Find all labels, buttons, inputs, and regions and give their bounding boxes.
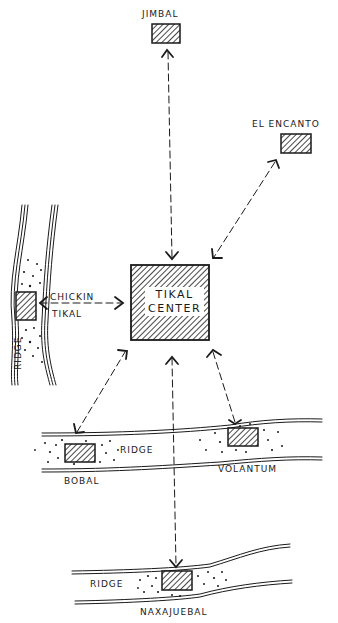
label-naxajuebal: NAXAJUEBAL: [140, 608, 208, 617]
site-box-volantum: [228, 428, 258, 446]
site-box-jimbal: [152, 24, 180, 43]
site-box-bobal: [65, 444, 95, 462]
label-left-ridge: RIDGE: [14, 337, 23, 371]
connector-jimbal: [162, 50, 178, 259]
site-box-chickin-tikal: [16, 292, 36, 320]
label-volantum: VOLANTUM: [218, 465, 277, 474]
site-box-naxajuebal: [162, 571, 192, 590]
connector-bobal: [74, 350, 127, 433]
connector-el-encanto: [212, 160, 279, 258]
label-bottom-ridge: RIDGE: [90, 580, 124, 589]
connector-volantum: [207, 350, 241, 424]
label-tikal-center: TIKAL CENTER: [145, 287, 204, 316]
label-el-encanto: EL ENCANTO: [252, 120, 320, 129]
label-tikal-center-line2: CENTER: [148, 303, 201, 314]
label-middle-ridge: RIDGE: [120, 446, 154, 455]
label-tikal-center-line1: TIKAL: [148, 289, 201, 300]
label-chickin-tikal-line1: CHICKIN: [50, 293, 94, 302]
label-chickin-tikal-line2: TIKAL: [52, 310, 82, 319]
site-box-el-encanto: [281, 134, 311, 153]
label-jimbal: JIMBAL: [142, 10, 178, 19]
connector-naxajuebal: [166, 357, 182, 567]
label-bobal: BOBAL: [64, 477, 99, 486]
